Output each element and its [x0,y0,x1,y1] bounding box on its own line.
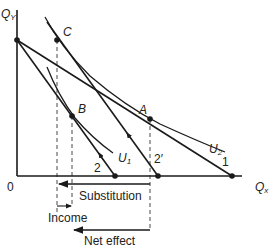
income-substitution-diagram: QY Qx 0 C B A U1 U2 2 2′ 1 Substitution … [0,0,273,250]
substitution-label: Substitution [79,189,142,203]
point-a-label: A [138,103,147,117]
point-c [54,37,60,43]
arrow-line-2 [99,153,103,160]
point-1-intercept [229,173,235,179]
budget-2prime-label: 2′ [154,152,164,166]
u2-label: U2 [209,142,223,157]
u1-label: U1 [118,151,131,166]
point-c-label: C [63,25,72,39]
point-a [147,116,153,122]
net-effect-label: Net effect [84,234,136,248]
point-2prime-intercept [155,173,161,179]
point-2-intercept [112,173,118,179]
point-b-label: B [78,102,86,116]
point-b [69,113,75,119]
y-intercept-point [14,37,20,43]
budget-1-label: 1 [222,155,229,169]
x-axis-label: Qx [255,180,269,195]
budget-2-label: 2 [94,161,101,175]
income-label: Income [48,211,88,225]
origin-label: 0 [7,180,14,194]
y-axis-label: QY [1,7,16,22]
arrow-line-2prime [127,133,131,139]
